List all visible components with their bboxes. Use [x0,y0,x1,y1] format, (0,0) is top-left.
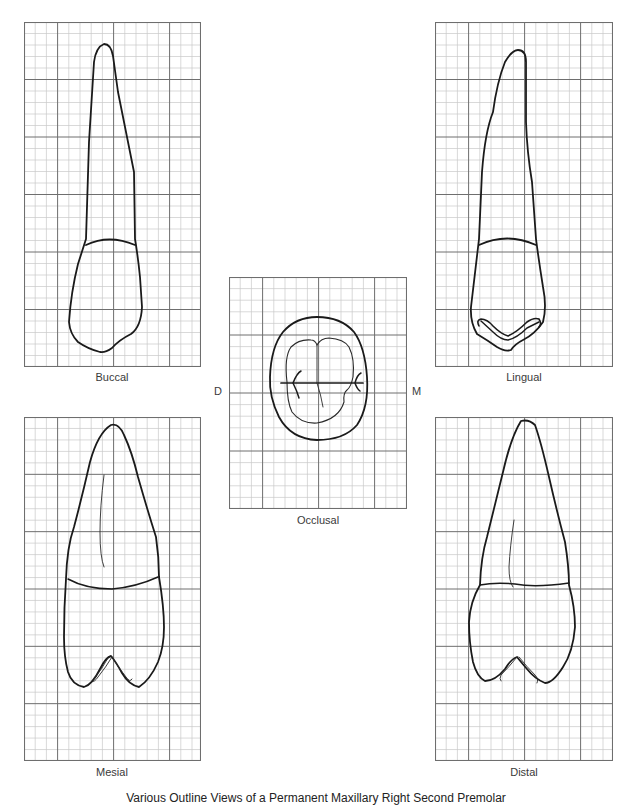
distal-view-panel [435,417,613,761]
figure-caption: Various Outline Views of a Permanent Max… [0,791,632,805]
lingual-tooth-outline [471,50,545,351]
mesial-root-groove [100,475,104,567]
lingual-marginal-ridge-inner [481,321,539,340]
mesial-triangular-groove [355,373,361,391]
lingual-label: Lingual [434,371,614,383]
mesial-direction-marker: M [412,385,421,397]
mesial-view-panel [24,417,201,761]
buccal-label: Buccal [22,371,202,383]
distal-triangular-groove [293,371,301,398]
distal-direction-marker: D [214,385,222,397]
buccal-grid [24,22,201,367]
mesial-label: Mesial [22,766,202,778]
occlusal-grid [229,277,407,509]
occlusal-label: Occlusal [228,514,408,526]
buccal-view-panel [24,22,201,367]
occlusal-view-panel [229,277,407,509]
lingual-cej-line [479,239,536,246]
buccal-ridge-line [317,345,323,407]
lingual-grid [435,22,613,367]
mesial-cej-line [68,577,158,589]
lingual-view-panel [435,22,613,367]
distal-tooth-outline [469,421,575,684]
distal-grid [435,417,613,761]
mesial-grid [24,417,201,761]
distal-label: Distal [434,766,614,778]
